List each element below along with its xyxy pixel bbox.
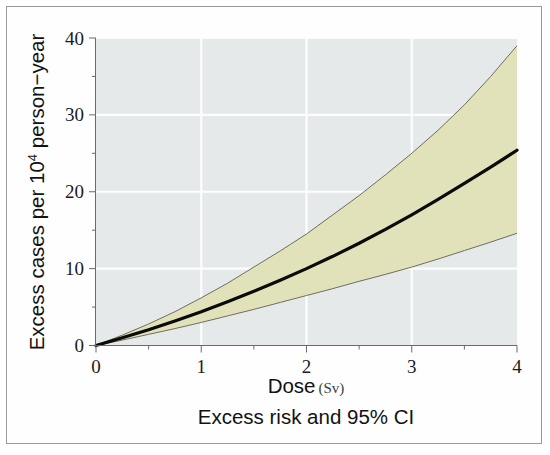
chart-caption: Excess risk and 95% CI bbox=[198, 405, 414, 428]
x-tick-label: 3 bbox=[407, 356, 417, 377]
excess-risk-chart: 01234 010203040 Excess cases per 104 per… bbox=[0, 0, 550, 455]
y-axis-tick-labels: 010203040 bbox=[65, 28, 84, 357]
figure-container: 01234 010203040 Excess cases per 104 per… bbox=[0, 0, 550, 455]
y-axis-title-main: Excess cases per 10 bbox=[25, 161, 48, 350]
x-axis-title-unit: (Sv) bbox=[319, 380, 345, 397]
y-axis-title-tail: person−year bbox=[25, 34, 48, 154]
x-tick-label: 1 bbox=[197, 356, 207, 377]
x-axis-ticks bbox=[96, 346, 517, 353]
x-axis-title: Dose(Sv) bbox=[268, 374, 345, 397]
y-tick-label: 10 bbox=[65, 258, 84, 279]
x-axis-title-main: Dose bbox=[268, 374, 316, 397]
y-tick-label: 0 bbox=[75, 335, 85, 356]
y-tick-label: 40 bbox=[65, 28, 84, 49]
y-tick-label: 20 bbox=[65, 181, 84, 202]
y-axis-title: Excess cases per 104 person−year bbox=[25, 34, 48, 351]
y-axis-title-exponent: 4 bbox=[25, 154, 40, 161]
y-tick-label: 30 bbox=[65, 104, 84, 125]
x-tick-label: 0 bbox=[91, 356, 101, 377]
svg-text:Excess cases per 104 person−ye: Excess cases per 104 person−year bbox=[25, 34, 48, 351]
x-tick-label: 4 bbox=[512, 356, 522, 377]
y-axis-ticks bbox=[89, 38, 96, 346]
svg-text:Dose(Sv): Dose(Sv) bbox=[268, 374, 345, 397]
